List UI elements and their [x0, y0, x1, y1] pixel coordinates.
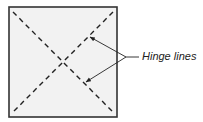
- hinge-lines-label: Hinge lines: [142, 50, 196, 62]
- square-panel: [9, 7, 117, 117]
